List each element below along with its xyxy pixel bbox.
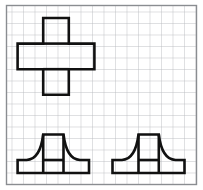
- figure-container: [0, 0, 203, 190]
- figure-canvas: [0, 0, 203, 190]
